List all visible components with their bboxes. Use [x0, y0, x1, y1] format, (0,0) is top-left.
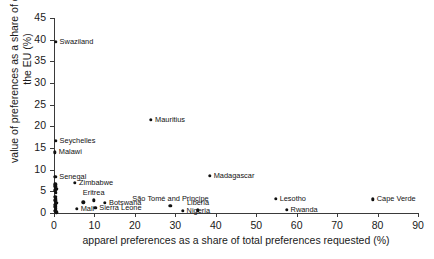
x-tick-label: 0	[34, 219, 74, 231]
y-tick-mark	[50, 126, 54, 127]
data-point-label: Mali	[81, 205, 95, 213]
x-tick-mark	[54, 213, 55, 217]
x-tick-mark	[418, 213, 419, 217]
x-tick-label: 30	[155, 219, 195, 231]
y-tick-mark	[50, 18, 54, 19]
y-tick-label: 10	[18, 164, 46, 175]
x-tick-mark	[337, 213, 338, 217]
data-point-label: Lesotho	[280, 195, 306, 203]
x-tick-mark	[175, 213, 176, 217]
y-tick-mark	[50, 105, 54, 106]
x-tick-label: 70	[317, 219, 357, 231]
y-axis-label-wrapper: value of preferences as a share of expor…	[8, 0, 34, 164]
x-axis-line	[54, 213, 418, 214]
y-tick-label: 5	[18, 185, 46, 196]
data-point-label: Malawi	[59, 148, 82, 156]
data-point-label: Mauritius	[155, 116, 185, 124]
data-point-label: Madagascar	[214, 172, 255, 180]
y-tick-label: 0	[18, 207, 46, 218]
x-tick-mark	[94, 213, 95, 217]
data-point-label: Rwanda	[291, 206, 318, 214]
x-tick-label: 20	[115, 219, 155, 231]
x-tick-label: 80	[358, 219, 398, 231]
data-point-label: Liberia	[187, 199, 209, 207]
y-tick-mark	[50, 61, 54, 62]
y-tick-mark	[50, 148, 54, 149]
data-point-label: Zimbabwe	[79, 179, 113, 187]
data-point-label: Seychelles	[60, 137, 96, 145]
x-axis-label: apparel preferences as a share of total …	[54, 234, 418, 246]
x-tick-label: 60	[277, 219, 317, 231]
y-tick-mark	[50, 213, 54, 214]
y-tick-mark	[50, 170, 54, 171]
data-point-label: Swaziland	[60, 38, 94, 46]
y-axis-label: value of preferences as a share of expor…	[8, 0, 33, 164]
x-tick-label: 90	[398, 219, 434, 231]
x-tick-label: 50	[236, 219, 276, 231]
scatter-chart-figure: 0102030405060708090 051015202530354045 S…	[0, 0, 434, 259]
x-tick-label: 10	[74, 219, 114, 231]
y-tick-mark	[50, 83, 54, 84]
data-point-label: Cape Verde	[377, 195, 416, 203]
x-tick-label: 40	[196, 219, 236, 231]
x-tick-mark	[256, 213, 257, 217]
x-tick-mark	[378, 213, 379, 217]
x-tick-mark	[135, 213, 136, 217]
x-tick-mark	[216, 213, 217, 217]
x-tick-mark	[297, 213, 298, 217]
data-point-label: Sierra Leone	[99, 204, 141, 212]
data-point-label: Eritrea	[83, 189, 105, 197]
